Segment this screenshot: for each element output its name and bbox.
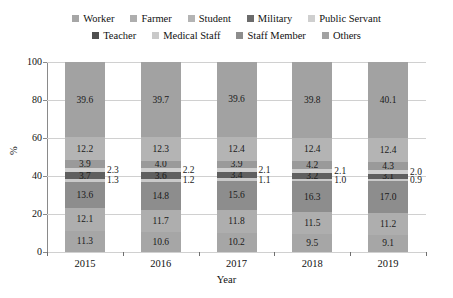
- legend-swatch-icon: [247, 15, 254, 22]
- y-tick-mark: [43, 62, 47, 63]
- bar-2015[interactable]: 11.312.113.61.33.72.33.912.239.6: [65, 62, 105, 252]
- bar-2018[interactable]: 9.511.516.31.03.22.14.212.439.8: [292, 62, 332, 252]
- bar-segment-value: 4.2: [292, 160, 332, 170]
- bar-segment-value: 10.2: [217, 237, 257, 247]
- chart-legend: WorkerFarmerStudentMilitaryPublic Servan…: [0, 10, 453, 44]
- legend-item-teacher[interactable]: Teacher: [92, 30, 136, 41]
- x-tick-mark: [350, 252, 351, 256]
- y-tick-label: 100: [27, 57, 42, 67]
- bar-segment-value: 3.9: [65, 159, 105, 169]
- bar-segment-value: 12.2: [65, 144, 105, 154]
- bar-segment-value: 39.6: [65, 95, 105, 105]
- bar-segment-value: 13.6: [65, 190, 105, 200]
- bar-segment-value: 2.2: [183, 165, 209, 175]
- legend-item-staff-member[interactable]: Staff Member: [236, 30, 305, 41]
- bar-segment-value: 12.4: [368, 145, 408, 155]
- legend-item-military[interactable]: Military: [247, 13, 292, 24]
- y-axis-title: %: [8, 146, 19, 155]
- x-tick-label-2019: 2019: [378, 258, 399, 270]
- bar-segment-value: 4.0: [141, 159, 181, 169]
- legend-swatch-icon: [322, 32, 329, 39]
- legend-item-student[interactable]: Student: [188, 13, 231, 24]
- stacked-bar-chart: WorkerFarmerStudentMilitaryPublic Servan…: [0, 0, 453, 298]
- x-tick-mark: [123, 252, 124, 256]
- bar-segment-value: 12.3: [141, 144, 181, 154]
- legend-item-label: Public Servant: [319, 13, 381, 24]
- bar-segment-value: 9.1: [368, 238, 408, 248]
- bar-segment-value: 2.0: [410, 167, 436, 177]
- bar-segment-value: 39.7: [141, 95, 181, 105]
- bar-2019[interactable]: 9.111.217.00.93.12.04.312.440.1: [368, 62, 408, 252]
- x-tick-mark: [47, 252, 48, 256]
- x-tick-label-2017: 2017: [226, 258, 247, 270]
- legend-swatch-icon: [236, 32, 243, 39]
- bar-segment-value: 39.8: [292, 95, 332, 105]
- x-tick-mark: [199, 252, 200, 256]
- bar-segment-value: 2.1: [334, 166, 360, 176]
- x-tick-mark: [426, 252, 427, 256]
- legend-item-label: Others: [333, 30, 361, 41]
- bar-segment-value: 1.0: [334, 175, 360, 185]
- legend-item-label: Military: [258, 13, 292, 24]
- legend-swatch-icon: [130, 15, 137, 22]
- legend-item-label: Student: [199, 13, 231, 24]
- legend-swatch-icon: [308, 15, 315, 22]
- legend-item-label: Medical Staff: [163, 30, 220, 41]
- legend-swatch-icon: [72, 15, 79, 22]
- bar-segment-value: 12.1: [65, 214, 105, 224]
- bar-segment-value: 11.8: [217, 216, 257, 226]
- bar-segment-value: 2.1: [259, 165, 285, 175]
- bar-segment-value: 14.8: [141, 191, 181, 201]
- legend-item-medical-staff[interactable]: Medical Staff: [152, 30, 220, 41]
- plot-area: 02040608010011.312.113.61.33.72.33.912.2…: [47, 62, 426, 252]
- legend-swatch-icon: [152, 32, 159, 39]
- bar-segment-value: 11.7: [141, 216, 181, 226]
- y-tick-label: 20: [32, 209, 42, 219]
- y-tick-mark: [43, 176, 47, 177]
- x-tick-label-2018: 2018: [302, 258, 323, 270]
- legend-item-label: Worker: [83, 13, 114, 24]
- bar-segment-value: 16.3: [292, 192, 332, 202]
- bar-2017[interactable]: 10.211.815.61.13.42.13.912.439.6: [217, 62, 257, 252]
- legend-item-others[interactable]: Others: [322, 30, 361, 41]
- y-tick-label: 0: [37, 247, 42, 257]
- bar-segment-value: 9.5: [292, 238, 332, 248]
- bar-segment-value: 1.1: [259, 175, 285, 185]
- bar-segment-value: 3.9: [217, 159, 257, 169]
- bar-segment-value: 12.4: [217, 144, 257, 154]
- x-tick-label-2016: 2016: [150, 258, 171, 270]
- bar-segment-value: 39.6: [217, 94, 257, 104]
- legend-item-worker[interactable]: Worker: [72, 13, 114, 24]
- bar-segment-value: 17.0: [368, 192, 408, 202]
- bar-segment-value: 1.2: [183, 175, 209, 185]
- bar-segment-value: 40.1: [368, 95, 408, 105]
- bar-segment-value: 1.3: [107, 175, 133, 185]
- legend-item-farmer[interactable]: Farmer: [130, 13, 171, 24]
- y-tick-label: 60: [32, 133, 42, 143]
- y-tick-label: 40: [32, 171, 42, 181]
- y-tick-mark: [43, 138, 47, 139]
- legend-swatch-icon: [188, 15, 195, 22]
- legend-row-1: WorkerFarmerStudentMilitaryPublic Servan…: [0, 10, 453, 27]
- legend-item-label: Farmer: [141, 13, 171, 24]
- legend-swatch-icon: [92, 32, 99, 39]
- bar-segment-value: 12.4: [292, 144, 332, 154]
- x-axis-title: Year: [0, 274, 453, 285]
- x-tick-mark: [274, 252, 275, 256]
- bar-segment-value: 10.6: [141, 237, 181, 247]
- y-tick-label: 80: [32, 95, 42, 105]
- legend-item-label: Teacher: [103, 30, 136, 41]
- bar-segment-value: 11.5: [292, 218, 332, 228]
- bar-segment-value: 11.3: [65, 236, 105, 246]
- legend-item-label: Staff Member: [247, 30, 305, 41]
- x-tick-label-2015: 2015: [74, 258, 95, 270]
- y-tick-mark: [43, 214, 47, 215]
- y-tick-mark: [43, 100, 47, 101]
- bar-segment-value: 3.7: [65, 171, 105, 181]
- legend-item-public-servant[interactable]: Public Servant: [308, 13, 381, 24]
- bar-2016[interactable]: 10.611.714.81.23.62.24.012.339.7: [141, 62, 181, 252]
- bar-segment-value: 4.3: [368, 161, 408, 171]
- bar-segment-value: 2.3: [107, 165, 133, 175]
- bar-segment-value: 15.6: [217, 190, 257, 200]
- bar-segment-value: 0.9: [410, 175, 436, 185]
